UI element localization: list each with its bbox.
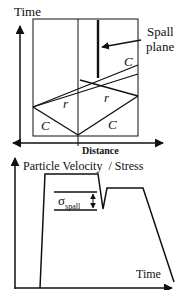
region-label-c-lower-left: C (41, 119, 50, 132)
region-label-r-right: r (104, 91, 109, 104)
time-axis-label: Time (14, 5, 41, 18)
time-axis-label-bottom: Time (136, 268, 161, 280)
release-fan-upper (33, 65, 138, 107)
region-label-r-left: r (63, 97, 68, 110)
sigma-symbol: σ (58, 193, 65, 208)
release-fan-lower (33, 74, 138, 107)
spall-label-line2: plane (146, 40, 174, 53)
region-label-c-upper: C (124, 55, 133, 68)
spall-subscript: spall (65, 202, 80, 211)
spall-label-line1: Spall (147, 25, 174, 38)
distance-axis-label: Distance (82, 146, 119, 156)
shock-left-lower (33, 107, 78, 135)
spall-strength-label: σspall (58, 194, 80, 211)
wave-profile-title: Particle Velocity / Stress (23, 160, 143, 172)
spall-plane-arrow (102, 40, 141, 47)
region-label-c-lower-right: C (108, 118, 117, 131)
top-xt-diagram (13, 19, 163, 146)
